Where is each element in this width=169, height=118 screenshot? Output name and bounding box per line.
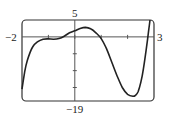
y-min-label: −19 [66, 104, 83, 115]
x-max-label: 3 [157, 32, 163, 43]
x-min-label: −2 [5, 32, 17, 43]
viewing-window-frame [22, 20, 154, 101]
y-max-label: 5 [72, 8, 78, 19]
axis-ticks [48, 35, 127, 88]
function-curve [22, 20, 150, 96]
chart-canvas [0, 0, 169, 118]
